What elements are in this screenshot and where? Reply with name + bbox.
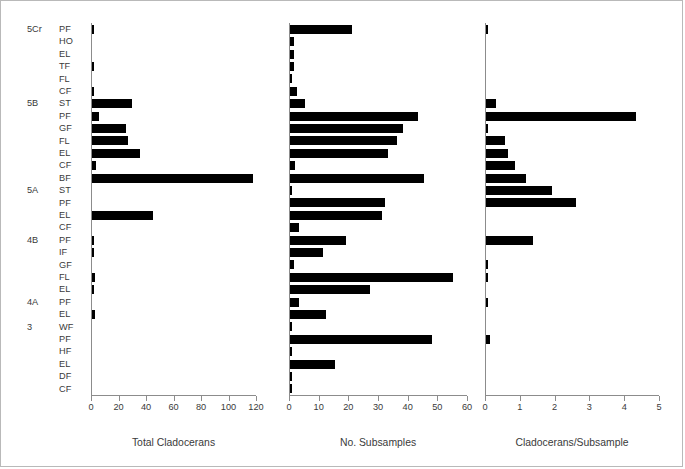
bar: [290, 62, 294, 71]
bar: [290, 25, 352, 34]
bar: [290, 285, 370, 294]
x-axis-tick-label: 40: [141, 402, 151, 412]
bar: [92, 149, 140, 158]
x-axis-tick: [555, 396, 556, 401]
bar: [92, 273, 95, 282]
figure-container: 5CrPFHOELTFFLCF5BSTPFGFFLELCFBF5ASTPFELC…: [0, 0, 683, 467]
bar: [486, 236, 533, 245]
category-label-column: 5CrPFHOELTFFLCF5BSTPFGFFLELCFBF5ASTPFELC…: [1, 23, 87, 395]
x-axis-line: [485, 395, 659, 396]
bar: [92, 112, 99, 121]
x-axis-tick: [437, 396, 438, 401]
bar: [92, 236, 94, 245]
bar: [290, 149, 388, 158]
bar: [290, 310, 326, 319]
x-axis-tick: [659, 396, 660, 401]
bar: [486, 25, 488, 34]
bar: [290, 124, 403, 133]
bar: [486, 124, 488, 133]
bar: [92, 136, 128, 145]
bar: [290, 37, 294, 46]
bar: [290, 384, 292, 393]
bar: [290, 335, 432, 344]
panel-no-subsamples: 0102030405060No. Subsamples: [289, 23, 467, 395]
bar: [92, 161, 96, 170]
x-axis-tick-label: 60: [168, 402, 178, 412]
x-axis-tick: [467, 396, 468, 401]
bar: [290, 223, 299, 232]
bar: [486, 161, 515, 170]
bar: [290, 74, 292, 83]
x-axis-tick: [624, 396, 625, 401]
bar: [290, 360, 335, 369]
bar: [92, 62, 94, 71]
bar: [92, 248, 94, 257]
bar: [290, 87, 297, 96]
bar: [290, 248, 323, 257]
bar: [486, 298, 488, 307]
category-sub-label: CF: [59, 383, 81, 397]
bar: [92, 174, 253, 183]
bar: [290, 161, 295, 170]
x-axis-tick: [91, 396, 92, 401]
bar: [290, 236, 346, 245]
bar: [290, 50, 294, 59]
bar: [290, 322, 292, 331]
plot-area: [485, 23, 659, 395]
x-axis-tick-label: 40: [403, 402, 413, 412]
x-axis-tick-label: 4: [622, 402, 627, 412]
x-axis-tick-label: 50: [432, 402, 442, 412]
x-axis-tick-label: 5: [656, 402, 661, 412]
bar: [486, 136, 505, 145]
x-axis-tick-label: 120: [248, 402, 263, 412]
x-axis-tick-label: 20: [113, 402, 123, 412]
bar: [290, 136, 397, 145]
bar: [92, 285, 94, 294]
panel-axis-title: Cladocerans/Subsample: [515, 437, 628, 448]
category-label-row: CF: [1, 383, 87, 397]
x-axis-tick: [485, 396, 486, 401]
bar: [486, 149, 508, 158]
bar: [486, 260, 488, 269]
bar: [92, 87, 94, 96]
bar: [290, 298, 299, 307]
x-axis-tick-label: 3: [587, 402, 592, 412]
x-axis-tick-label: 100: [221, 402, 236, 412]
bar: [290, 198, 385, 207]
x-axis-tick-label: 30: [373, 402, 383, 412]
bar: [92, 25, 94, 34]
bar: [486, 186, 552, 195]
x-axis-tick-label: 0: [88, 402, 93, 412]
bar: [290, 112, 418, 121]
bar: [486, 112, 636, 121]
x-axis-tick-label: 0: [286, 402, 291, 412]
x-axis-tick: [229, 396, 230, 401]
bar: [486, 99, 496, 108]
x-axis-tick: [348, 396, 349, 401]
panel-axis-title: Total Cladocerans: [132, 437, 215, 448]
panel-axis-title: No. Subsamples: [340, 437, 416, 448]
bar: [290, 211, 382, 220]
bar: [486, 335, 490, 344]
y-axis-line: [91, 23, 92, 395]
bar: [486, 273, 488, 282]
x-axis-tick: [146, 396, 147, 401]
bar: [290, 273, 453, 282]
bar: [486, 198, 576, 207]
x-axis-tick: [408, 396, 409, 401]
bar: [290, 99, 305, 108]
plot-area: [91, 23, 256, 395]
x-axis-tick: [589, 396, 590, 401]
bar: [92, 124, 126, 133]
x-axis-tick: [201, 396, 202, 401]
x-axis-tick-label: 20: [343, 402, 353, 412]
x-axis-tick-label: 2: [552, 402, 557, 412]
x-axis-tick: [119, 396, 120, 401]
plot-area: [289, 23, 467, 395]
x-axis-tick: [378, 396, 379, 401]
x-axis-tick: [174, 396, 175, 401]
x-axis-tick-label: 60: [462, 402, 472, 412]
x-axis-tick: [319, 396, 320, 401]
x-axis-tick-label: 1: [517, 402, 522, 412]
bar: [290, 260, 294, 269]
